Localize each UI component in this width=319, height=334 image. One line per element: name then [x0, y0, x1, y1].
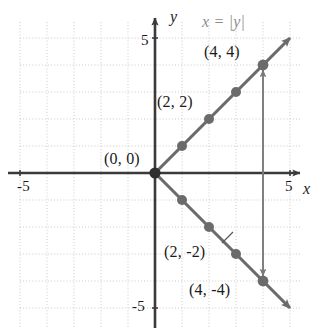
point-marker [231, 87, 241, 97]
y-tick-label-5: 5 [141, 33, 149, 48]
point-label-4-4: (4, 4) [204, 44, 240, 60]
x-axis-label: x [303, 181, 310, 197]
point-marker [177, 141, 187, 151]
point-marker [204, 222, 214, 232]
point-marker [258, 276, 269, 287]
point-label-0-0: (0, 0) [104, 151, 140, 167]
point-label-2-2: (2, 2) [157, 94, 193, 110]
point-marker [204, 114, 214, 124]
graph-figure: x = |y| (4, 4) (2, 2) (0, 0) (2, -2) (4,… [0, 0, 319, 334]
equation-label: x = |y| [202, 14, 245, 30]
leader-line [222, 232, 233, 243]
y-tick-label-neg5: -5 [132, 299, 145, 314]
point-marker [258, 60, 269, 71]
origin-point-marker [149, 167, 160, 178]
x-tick-label-5: 5 [285, 179, 293, 194]
y-axis-label: y [170, 9, 177, 25]
point-label-4-neg4: (4, -4) [189, 282, 230, 298]
x-tick-label-neg5: -5 [17, 179, 30, 194]
equation-text: x = |y| [202, 13, 245, 30]
point-marker [231, 249, 241, 259]
point-label-2-neg2: (2, -2) [164, 244, 205, 260]
point-marker [177, 195, 187, 205]
coordinate-plane [0, 0, 319, 334]
